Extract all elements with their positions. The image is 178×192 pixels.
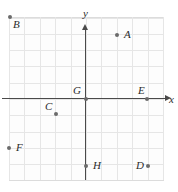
point-label-e: E xyxy=(138,85,145,96)
point-label-b: B xyxy=(13,19,20,30)
point-label-a: A xyxy=(124,29,131,40)
plot-point-f xyxy=(7,146,11,150)
grid-line-horizontal xyxy=(9,148,163,149)
plot-point-a xyxy=(115,33,119,37)
plot-point-b xyxy=(8,15,12,19)
plot-point-e xyxy=(145,97,149,101)
grid-line-horizontal xyxy=(9,132,163,133)
plot-point-c xyxy=(54,112,58,116)
y-axis-line xyxy=(85,30,86,180)
point-label-h: H xyxy=(93,160,101,171)
point-label-c: C xyxy=(45,101,52,112)
y-axis-arrow-icon xyxy=(82,24,88,30)
plot-point-g xyxy=(84,97,88,101)
grid-line-horizontal xyxy=(9,115,163,116)
point-label-d: D xyxy=(136,160,144,171)
grid-line-horizontal xyxy=(9,34,163,35)
coordinate-plane-figure: x y ABCDEFGH xyxy=(0,0,178,192)
x-axis-label: x xyxy=(169,94,174,105)
plot-point-h xyxy=(84,164,88,168)
point-label-f: F xyxy=(16,142,23,153)
grid-line-horizontal xyxy=(9,66,163,67)
point-label-g: G xyxy=(73,85,81,96)
y-axis-label: y xyxy=(83,8,88,19)
grid-line-horizontal xyxy=(9,50,163,51)
plot-point-d xyxy=(146,164,150,168)
